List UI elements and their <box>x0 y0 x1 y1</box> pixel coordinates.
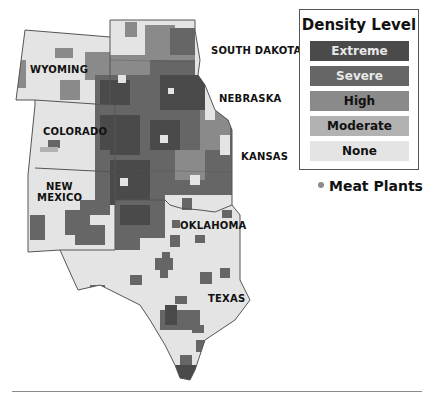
state-label-texas: TEXAS <box>208 293 245 304</box>
state-label-oklahoma: OKLAHOMA <box>180 220 247 231</box>
state-label-colorado: COLORADO <box>43 126 107 137</box>
legend-swatch-high: High <box>310 91 409 111</box>
meat-plant-dot-icon <box>318 182 324 188</box>
legend-swatch-moderate: Moderate <box>310 116 409 136</box>
bottom-rule <box>12 391 422 392</box>
legend-swatch-extreme: Extreme <box>310 41 409 61</box>
state-label-nebraska: NEBRASKA <box>219 93 282 104</box>
density-legend: Density Level Extreme Severe High Modera… <box>299 9 419 170</box>
legend-swatch-severe: Severe <box>310 66 409 86</box>
state-label-south-dakota: SOUTH DAKOTA <box>211 45 302 56</box>
legend-swatch-none: None <box>310 141 409 161</box>
state-label-wyoming: WYOMING <box>30 64 88 75</box>
state-label-new-mexico-line1: NEW <box>46 181 73 192</box>
state-label-new-mexico-line2: MEXICO <box>37 192 82 203</box>
state-label-kansas: KANSAS <box>241 151 288 162</box>
meat-plants-label: Meat Plants <box>329 178 423 194</box>
meat-plants-legend: Meat Plants <box>318 178 423 194</box>
legend-title: Density Level <box>300 16 418 34</box>
